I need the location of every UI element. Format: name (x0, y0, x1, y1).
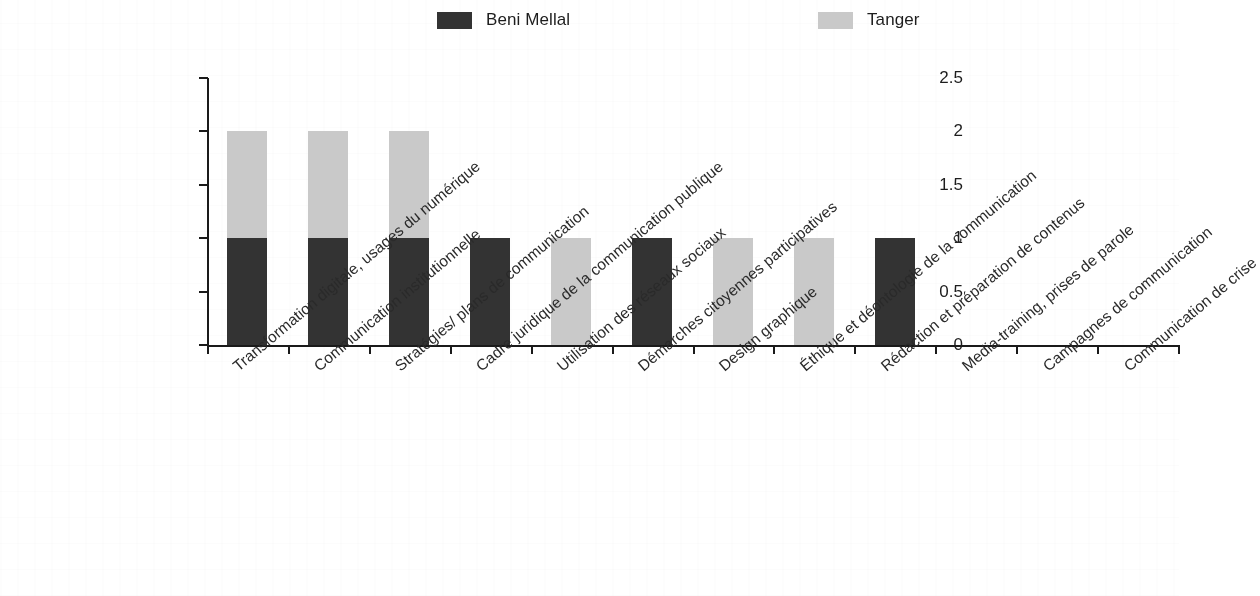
bar-segment-tanger[interactable] (227, 131, 267, 238)
y-axis-tick (199, 77, 208, 79)
legend-swatch-beni-mellal (437, 12, 472, 29)
legend-label-beni-mellal: Beni Mellal (486, 10, 570, 30)
y-axis-tick-label: 2 (954, 121, 963, 141)
y-axis-tick-label: 1.5 (939, 175, 963, 195)
x-axis-tick (854, 345, 856, 354)
y-axis-tick (199, 237, 208, 239)
x-axis-tick (612, 345, 614, 354)
bar-1[interactable] (227, 131, 267, 345)
x-axis-tick (369, 345, 371, 354)
x-axis-tick (1178, 345, 1180, 354)
legend-item-tanger[interactable]: Tanger (818, 10, 920, 30)
x-axis-tick (935, 345, 937, 354)
legend-item-beni-mellal[interactable]: Beni Mellal (437, 10, 570, 30)
y-axis-tick (199, 130, 208, 132)
y-axis-line (207, 78, 209, 345)
x-axis-tick (1016, 345, 1018, 354)
x-axis-tick (207, 345, 209, 354)
chart-legend: Beni Mellal Tanger (0, 6, 1179, 36)
y-axis-tick (199, 291, 208, 293)
y-axis-tick-label: 2.5 (939, 68, 963, 88)
x-axis-tick (773, 345, 775, 354)
legend-label-tanger: Tanger (867, 10, 920, 30)
x-axis-tick (1097, 345, 1099, 354)
x-axis-tick (450, 345, 452, 354)
x-axis-tick (288, 345, 290, 354)
bar-segment-beni-mellal[interactable] (227, 238, 267, 345)
y-axis-tick (199, 184, 208, 186)
x-axis-tick (531, 345, 533, 354)
legend-swatch-tanger (818, 12, 853, 29)
x-axis-tick (693, 345, 695, 354)
y-axis-tick-label: 0 (954, 335, 963, 355)
bar-segment-tanger[interactable] (308, 131, 348, 238)
